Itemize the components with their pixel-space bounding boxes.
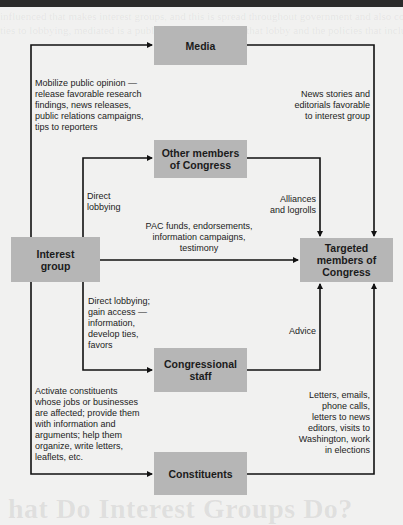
label-pac-funds: PAC funds, endorsements, information cam…	[138, 221, 260, 254]
node-constituents: Constituents	[154, 452, 247, 495]
label-activate-constituents: Activate constituents whose jobs or busi…	[35, 386, 155, 463]
node-label: Interest group	[37, 248, 75, 272]
label-media-to-targeted: News stories and editorials favorable to…	[272, 89, 370, 122]
node-label: Targeted members of Congress	[317, 242, 377, 278]
node-other-members: Other members of Congress	[154, 140, 247, 178]
node-label: Constituents	[168, 468, 232, 480]
node-congressional-staff: Congressional staff	[154, 348, 247, 392]
node-media: Media	[154, 26, 247, 65]
node-label: Other members of Congress	[162, 147, 240, 171]
label-letters-emails: Letters, emails, phone calls, letters to…	[286, 390, 370, 456]
label-staff-lobbying: Direct lobbying; gain access — informati…	[88, 296, 168, 351]
label-alliances-logrolls: Alliances and logrolls	[258, 194, 316, 216]
label-advice: Advice	[270, 326, 316, 337]
node-targeted-members: Targeted members of Congress	[300, 238, 393, 282]
node-label: Media	[186, 40, 216, 52]
label-direct-lobbying: Direct lobbying	[87, 191, 147, 213]
node-interest-group: Interest group	[11, 237, 100, 282]
label-interest-to-media: Mobilize public opinion — release favora…	[35, 78, 160, 133]
node-label: Congressional staff	[164, 358, 237, 382]
